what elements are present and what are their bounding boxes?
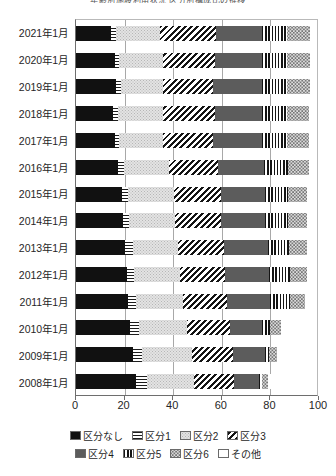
bar-segment[interactable] (180, 267, 226, 282)
bar-segment[interactable] (76, 213, 123, 228)
bar-segment[interactable] (262, 79, 287, 94)
bar-segment[interactable] (310, 53, 317, 68)
bar-segment[interactable] (309, 106, 317, 121)
legend-item[interactable]: その他 (218, 446, 261, 461)
bar-segment[interactable] (262, 133, 287, 148)
bar-segment[interactable] (221, 187, 266, 202)
bar-segment[interactable] (307, 213, 317, 228)
bar-segment[interactable] (287, 26, 310, 41)
bar-segment[interactable] (264, 160, 288, 175)
bar-segment[interactable] (128, 187, 174, 202)
stacked-bar[interactable] (76, 160, 317, 175)
bar-segment[interactable] (215, 106, 262, 121)
bar-segment[interactable] (128, 294, 136, 309)
bar-segment[interactable] (139, 320, 187, 335)
stacked-bar[interactable] (76, 374, 317, 389)
legend-item[interactable]: 区分2 (180, 428, 219, 443)
bar-segment[interactable] (76, 106, 113, 121)
bar-segment[interactable] (289, 240, 307, 255)
bar-segment[interactable] (129, 213, 175, 228)
bar-segment[interactable] (225, 267, 268, 282)
bar-segment[interactable] (76, 374, 136, 389)
legend-item[interactable]: 区分1 (132, 428, 171, 443)
bar-segment[interactable] (309, 133, 317, 148)
bar-segment[interactable] (268, 240, 290, 255)
bar-segment[interactable] (76, 133, 115, 148)
bar-segment[interactable] (290, 294, 304, 309)
bar-segment[interactable] (262, 320, 270, 335)
bar-segment[interactable] (133, 240, 179, 255)
bar-segment[interactable] (307, 240, 317, 255)
bar-segment[interactable] (270, 294, 290, 309)
bar-segment[interactable] (224, 240, 267, 255)
legend-item[interactable]: 区分3 (227, 428, 266, 443)
bar-segment[interactable] (125, 240, 132, 255)
bar-segment[interactable] (124, 160, 169, 175)
bar-segment[interactable] (288, 213, 307, 228)
bar-segment[interactable] (269, 267, 291, 282)
legend-item[interactable]: 区分4 (75, 446, 114, 461)
bar-segment[interactable] (174, 187, 221, 202)
bar-segment[interactable] (163, 79, 214, 94)
bar-segment[interactable] (76, 187, 122, 202)
bar-segment[interactable] (76, 53, 115, 68)
stacked-bar[interactable] (76, 267, 317, 282)
bar-segment[interactable] (288, 187, 307, 202)
bar-segment[interactable] (134, 267, 180, 282)
bar-segment[interactable] (147, 374, 194, 389)
bar-segment[interactable] (287, 53, 310, 68)
bar-segment[interactable] (187, 320, 230, 335)
bar-segment[interactable] (183, 294, 226, 309)
bar-segment[interactable] (163, 53, 215, 68)
stacked-bar[interactable] (76, 187, 317, 202)
bar-segment[interactable] (310, 26, 317, 41)
bar-segment[interactable] (213, 79, 261, 94)
legend-item[interactable]: 区分5 (123, 446, 162, 461)
bar-segment[interactable] (119, 133, 162, 148)
bar-segment[interactable] (121, 79, 163, 94)
bar-segment[interactable] (76, 79, 116, 94)
bar-segment[interactable] (305, 294, 317, 309)
bar-segment[interactable] (310, 79, 317, 94)
stacked-bar[interactable] (76, 320, 317, 335)
stacked-bar[interactable] (76, 294, 317, 309)
bar-segment[interactable] (234, 374, 259, 389)
bar-segment[interactable] (76, 240, 125, 255)
stacked-bar[interactable] (76, 79, 317, 94)
stacked-bar[interactable] (76, 26, 317, 41)
bar-segment[interactable] (76, 160, 118, 175)
bar-segment[interactable] (265, 213, 288, 228)
bar-segment[interactable] (130, 320, 138, 335)
bar-segment[interactable] (227, 294, 270, 309)
bar-segment[interactable] (262, 106, 287, 121)
bar-segment[interactable] (287, 106, 309, 121)
bar-segment[interactable] (76, 26, 111, 41)
bar-segment[interactable] (169, 160, 218, 175)
stacked-bar[interactable] (76, 106, 317, 121)
bar-segment[interactable] (160, 26, 215, 41)
bar-segment[interactable] (76, 320, 130, 335)
bar-segment[interactable] (265, 187, 288, 202)
stacked-bar[interactable] (76, 240, 317, 255)
bar-segment[interactable] (163, 106, 215, 121)
bar-segment[interactable] (163, 133, 214, 148)
bar-segment[interactable] (287, 133, 309, 148)
bar-segment[interactable] (136, 294, 183, 309)
bar-segment[interactable] (268, 374, 317, 389)
bar-segment[interactable] (262, 53, 287, 68)
bar-segment[interactable] (119, 53, 162, 68)
bar-segment[interactable] (133, 347, 143, 362)
bar-segment[interactable] (269, 347, 277, 362)
stacked-bar[interactable] (76, 53, 317, 68)
legend-item[interactable]: 区分なし (70, 428, 123, 443)
bar-segment[interactable] (136, 374, 147, 389)
bar-segment[interactable] (218, 160, 264, 175)
bar-segment[interactable] (192, 347, 233, 362)
legend-item[interactable]: 区分6 (170, 446, 209, 461)
bar-segment[interactable] (288, 160, 308, 175)
bar-segment[interactable] (233, 347, 266, 362)
bar-segment[interactable] (262, 26, 287, 41)
bar-segment[interactable] (127, 267, 134, 282)
bar-segment[interactable] (215, 53, 262, 68)
bar-segment[interactable] (142, 347, 191, 362)
